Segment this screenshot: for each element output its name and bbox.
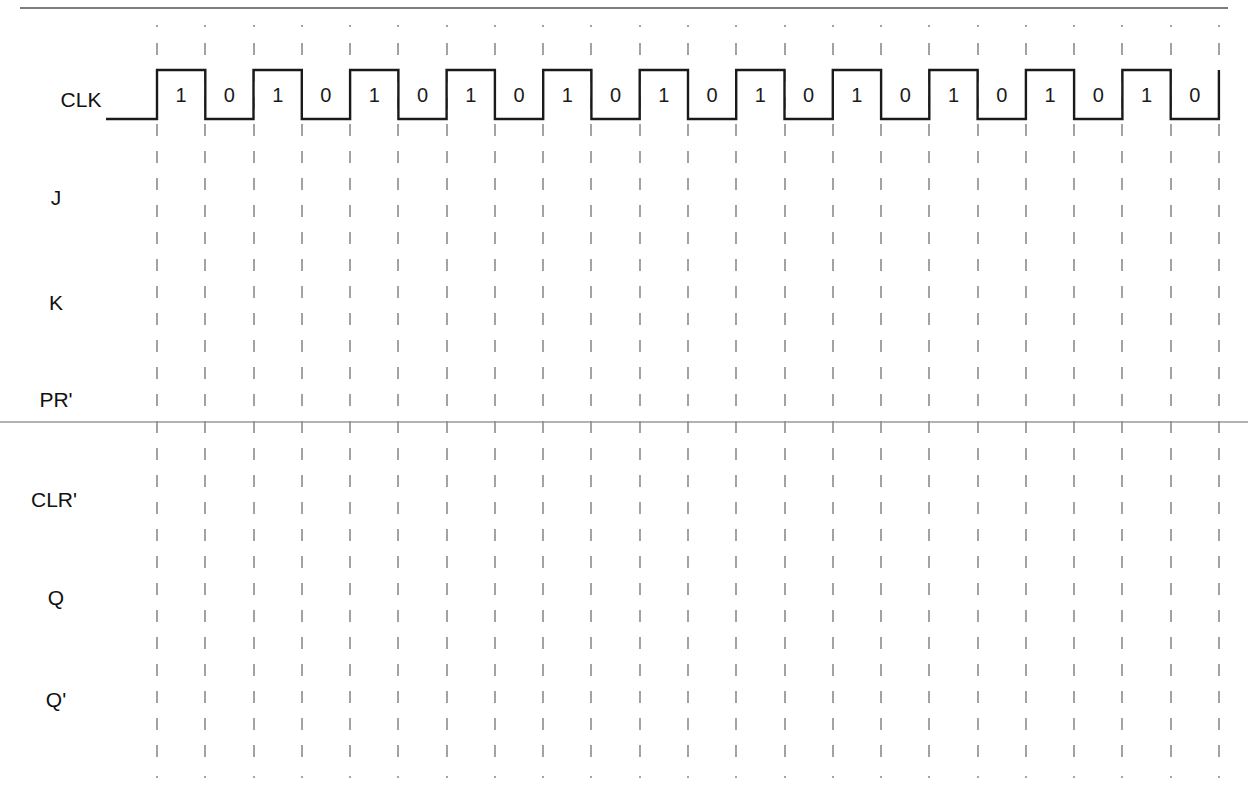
clock-bit-label: 1: [176, 84, 187, 106]
clock-bit-label: 0: [707, 84, 718, 106]
clock-bit-label: 1: [272, 84, 283, 106]
clock-edge-gridlines: [157, 25, 1219, 778]
clock-bit-label: 0: [513, 84, 524, 106]
clock-bit-label: 1: [369, 84, 380, 106]
clock-bit-label: 0: [610, 84, 621, 106]
signal-label-clr: CLR': [31, 488, 77, 511]
signal-label-pr: PR': [39, 388, 72, 411]
clock-bit-label: 0: [224, 84, 235, 106]
clock-bit-label: 1: [755, 84, 766, 106]
clock-bit-label: 1: [465, 84, 476, 106]
clock-bit-label: 0: [417, 84, 428, 106]
signal-label-k: K: [49, 291, 63, 314]
timing-diagram: 1010101010101010101010 CLK J K PR' CLR' …: [0, 0, 1248, 790]
clock-bit-label: 1: [851, 84, 862, 106]
clock-bit-label: 0: [996, 84, 1007, 106]
clock-bit-label: 0: [900, 84, 911, 106]
signal-label-q-bar: Q': [46, 688, 66, 711]
clock-bit-label: 0: [803, 84, 814, 106]
clock-bit-label: 1: [562, 84, 573, 106]
signal-label-q: Q: [48, 586, 64, 609]
signal-labels: CLK J K PR' CLR' Q Q': [31, 88, 101, 711]
clock-bit-label: 0: [320, 84, 331, 106]
signal-label-clk: CLK: [61, 88, 102, 111]
clock-bit-label: 1: [1141, 84, 1152, 106]
clock-bit-label: 1: [658, 84, 669, 106]
clock-bit-label: 0: [1189, 84, 1200, 106]
clock-bit-label: 1: [948, 84, 959, 106]
signal-label-j: J: [51, 186, 62, 209]
clock-bit-label: 0: [1093, 84, 1104, 106]
clock-bit-label: 1: [1044, 84, 1055, 106]
